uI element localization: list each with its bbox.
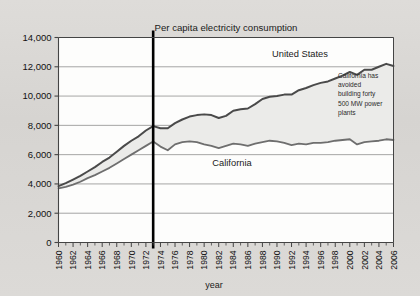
y-tick-label-2000: 2,000 — [28, 208, 52, 219]
x-tick-label-1968: 1968 — [112, 250, 122, 269]
x-tick-label-1988: 1988 — [258, 250, 268, 269]
y-tick-label-4000: 4,000 — [28, 178, 52, 189]
y-tick-label-14000: 14,000 — [22, 32, 51, 43]
y-tick-label-0: 0 — [46, 237, 51, 248]
y-axis-ticks: 02,0004,0006,0008,00010,00012,00014,000 — [22, 32, 58, 248]
x-tick-label-1974: 1974 — [156, 250, 166, 269]
x-tick-label-2006: 2006 — [389, 250, 399, 269]
x-tick-label-1982: 1982 — [214, 250, 224, 269]
x-tick-label-2002: 2002 — [360, 250, 370, 269]
x-tick-label-1972: 1972 — [141, 250, 151, 269]
x-axis-ticks: 1960196219641966196819701972197419761978… — [54, 243, 399, 270]
x-tick-label-1984: 1984 — [228, 250, 238, 269]
x-tick-label-1976: 1976 — [170, 250, 180, 269]
x-tick-label-1964: 1964 — [83, 250, 93, 269]
x-tick-label-2004: 2004 — [374, 250, 384, 269]
avoided-plants-note-line-3: building forty — [338, 90, 376, 98]
chart-canvas: 02,0004,0006,0008,00010,00012,00014,0001… — [0, 0, 420, 296]
avoided-plants-note-line-1: California has — [338, 72, 379, 79]
x-tick-label-1998: 1998 — [330, 250, 340, 269]
avoided-plants-note-line-5: plants — [338, 109, 356, 117]
avoided-plants-note-line-2: avoided — [338, 81, 361, 88]
avoided-plants-note-line-4: 500 MW power — [338, 100, 383, 108]
chart-title: Per capita electricity consumption — [155, 22, 298, 33]
chart-figure: 02,0004,0006,0008,00010,00012,00014,0001… — [0, 0, 420, 296]
x-tick-label-1994: 1994 — [301, 250, 311, 269]
x-tick-label-1980: 1980 — [199, 250, 209, 269]
x-tick-label-1962: 1962 — [68, 250, 78, 269]
x-tick-label-1978: 1978 — [185, 250, 195, 269]
x-tick-label-1992: 1992 — [287, 250, 297, 269]
x-tick-label-1996: 1996 — [316, 250, 326, 269]
x-tick-label-1986: 1986 — [243, 250, 253, 269]
x-tick-label-1970: 1970 — [127, 250, 137, 269]
x-tick-label-1966: 1966 — [97, 250, 107, 269]
x-tick-label-1990: 1990 — [272, 250, 282, 269]
x-tick-label-1960: 1960 — [54, 250, 64, 269]
california-series-label: California — [212, 158, 252, 168]
us-series-label: United States — [272, 49, 328, 59]
y-tick-label-6000: 6,000 — [28, 149, 52, 160]
x-tick-label-2000: 2000 — [345, 250, 355, 269]
x-axis-label: year — [205, 280, 223, 290]
y-tick-label-12000: 12,000 — [22, 61, 51, 72]
y-tick-label-10000: 10,000 — [22, 90, 51, 101]
y-tick-label-8000: 8,000 — [28, 120, 52, 131]
